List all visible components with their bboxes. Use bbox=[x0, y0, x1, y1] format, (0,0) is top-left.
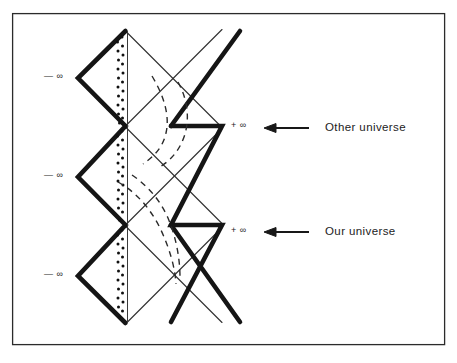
plus-infinity-other-universe-label: + ∞ bbox=[231, 121, 247, 130]
callout-arrows bbox=[264, 124, 309, 237]
right-boundary-zigzag bbox=[171, 126, 222, 322]
arrow-our-universe bbox=[264, 228, 309, 237]
horizon-line-2 bbox=[126, 129, 223, 226]
penrose-diagram-canvas bbox=[0, 0, 457, 363]
minus-infinity-middle-label: — ∞ bbox=[44, 171, 63, 180]
right-boundary-lower-extension bbox=[171, 225, 240, 322]
singularity-stipple bbox=[116, 36, 125, 319]
right-conformal-boundary bbox=[171, 31, 240, 322]
horizon-line-5 bbox=[126, 127, 223, 224]
penrose-diagram-figure: — ∞ — ∞ — ∞ + ∞ + ∞ Other universe Our u… bbox=[0, 0, 457, 363]
minus-infinity-top-label: — ∞ bbox=[44, 72, 63, 81]
arrow-other-universe bbox=[264, 124, 309, 133]
plus-infinity-our-universe-label: + ∞ bbox=[231, 226, 247, 235]
other-universe-label: Other universe bbox=[325, 122, 406, 134]
minus-infinity-bottom-label: — ∞ bbox=[44, 270, 63, 279]
worldline-lower-b bbox=[118, 182, 176, 284]
our-universe-label: Our universe bbox=[325, 226, 396, 238]
worldline-upper-a bbox=[143, 76, 167, 164]
